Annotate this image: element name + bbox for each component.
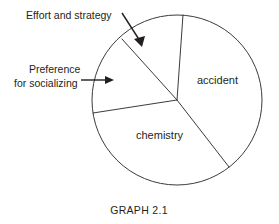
callout-label-effort-and-strategy: Effort and strategy xyxy=(26,9,112,21)
slice-label-accident: accident xyxy=(197,74,238,86)
callout-label-preference-line1: Preference xyxy=(29,63,81,75)
slice-label-chemistry: chemistry xyxy=(136,129,184,141)
pie-chart-svg: accident chemistry Effort and strategy P… xyxy=(0,0,279,224)
figure-caption: GRAPH 2.1 xyxy=(110,204,168,216)
callout-label-preference-line2: for socializing xyxy=(14,77,78,89)
graph-figure: accident chemistry Effort and strategy P… xyxy=(0,0,279,224)
